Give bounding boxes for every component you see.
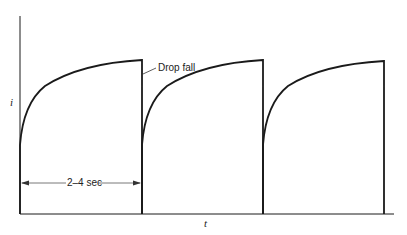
current-curve-cycle-1 [20, 60, 142, 214]
x-axis-label: t [204, 217, 207, 229]
current-curve-cycle-2 [142, 60, 263, 214]
drop-fall-label: Drop fall [158, 62, 195, 73]
arrowhead-left-icon [21, 181, 29, 186]
y-axis-label: i [10, 96, 13, 108]
chart-canvas [0, 0, 407, 235]
period-label: 2–4 sec [67, 177, 102, 188]
drop-fall-leader [143, 68, 156, 74]
current-curve-cycle-3 [263, 61, 384, 214]
polarogram-figure: i t Drop fall 2–4 sec [0, 0, 407, 235]
arrowhead-right-icon [133, 181, 141, 186]
